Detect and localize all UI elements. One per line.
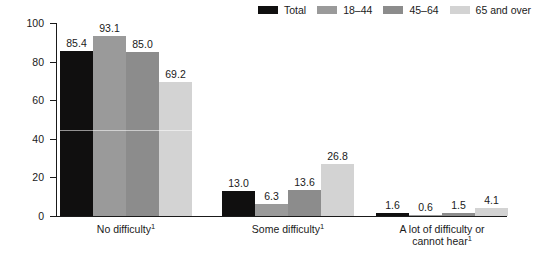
- bar: [376, 213, 409, 216]
- bar: [255, 204, 288, 216]
- legend-item: Total: [258, 5, 306, 16]
- legend-label: Total: [284, 5, 306, 16]
- footnote-marker: 1: [320, 222, 324, 231]
- legend-item: 65 and over: [450, 5, 531, 16]
- bar-value-label: 4.1: [471, 195, 512, 206]
- legend-swatch: [450, 6, 470, 14]
- bar-value-label: 13.0: [218, 178, 259, 189]
- y-axis-tick-label: 40: [2, 134, 44, 145]
- y-axis-tick-label: 100: [2, 18, 44, 29]
- y-axis-tick-label: 0: [2, 211, 44, 222]
- legend-item: 18–44: [317, 5, 372, 16]
- legend-label: 65 and over: [476, 5, 531, 16]
- bar-value-label: 26.8: [317, 151, 358, 162]
- y-axis-tick-label: 20: [2, 172, 44, 183]
- bar: [321, 164, 354, 216]
- bar: [60, 51, 93, 216]
- bar: [288, 190, 321, 216]
- bar: [93, 36, 126, 216]
- bar-value-label: 85.0: [122, 39, 163, 50]
- bar-value-label: 69.2: [155, 69, 196, 80]
- plot-area: 85.493.185.069.213.06.313.626.81.60.61.5…: [56, 23, 519, 216]
- x-axis-group-label: A lot of difficulty orcannot hear1: [352, 223, 532, 247]
- legend-label: 18–44: [343, 5, 372, 16]
- footnote-marker: 1: [151, 222, 155, 231]
- x-axis-group-label: No difficulty1: [36, 223, 216, 235]
- x-axis-line: [56, 216, 507, 217]
- bar: [159, 82, 192, 216]
- legend-item: 45–64: [383, 5, 438, 16]
- chart-legend: Total18–4445–6465 and over: [258, 3, 531, 17]
- legend-swatch: [317, 6, 337, 14]
- bar: [409, 215, 442, 216]
- bar: [442, 213, 475, 216]
- legend-label: 45–64: [409, 5, 438, 16]
- footnote-marker: 1: [468, 234, 472, 243]
- bar-chart: Total18–4445–6465 and over 100806040200 …: [0, 0, 534, 255]
- y-axis-tick-label: 80: [2, 57, 44, 68]
- y-axis-tick: [50, 216, 56, 217]
- bar-value-label: 85.4: [56, 38, 97, 49]
- bar-value-label: 6.3: [251, 191, 292, 202]
- bar: [475, 208, 508, 216]
- x-axis-group-label: Some difficulty1: [198, 223, 378, 235]
- bar-value-label: 13.6: [284, 177, 325, 188]
- legend-swatch: [383, 6, 403, 14]
- bar-value-label: 93.1: [89, 23, 130, 34]
- y-axis-tick-label: 60: [2, 95, 44, 106]
- legend-swatch: [258, 6, 278, 14]
